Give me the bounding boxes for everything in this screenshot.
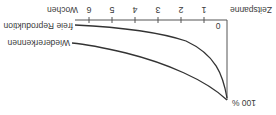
tick-label-5: 5 [109, 5, 114, 15]
x-axis-title: Zeitspanne [230, 5, 272, 15]
forgetting-curve-chart: 1 2 3 4 5 6 Zeitspanne Wochen 0 100 % fr… [0, 0, 276, 115]
tick-label-1: 1 [201, 5, 206, 15]
origin-label: 0 [215, 21, 220, 31]
x-axis-unit: Wochen [47, 5, 78, 15]
tick-label-2: 2 [178, 5, 183, 15]
tick-label-4: 4 [132, 5, 137, 15]
tick-label-3: 3 [155, 5, 160, 15]
curve-freie-reproduktion [75, 25, 227, 98]
chart-canvas: 1 2 3 4 5 6 Zeitspanne Wochen 0 100 % fr… [0, 0, 276, 115]
y-top-label: 100 % [231, 98, 256, 108]
tick-label-6: 6 [86, 5, 91, 15]
series-label-freie-reproduktion: freie Reproduktion [3, 21, 73, 31]
series-label-wiedererkennen: Wiedererkennen [7, 38, 70, 48]
